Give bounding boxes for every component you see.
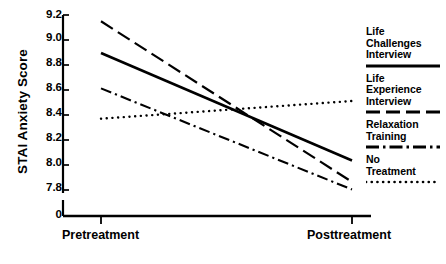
series-line-life-challenges-interview bbox=[101, 53, 352, 161]
series-line-life-experience-interview bbox=[101, 21, 352, 182]
legend-label-line3: Interview bbox=[366, 49, 444, 61]
legend-swatch-dotted bbox=[366, 178, 444, 187]
legend-entry-life-experience-interview: Life Experience Interview bbox=[366, 73, 444, 118]
legend-label-line1: Life bbox=[366, 26, 444, 38]
line-chart-figure: STAI Anxiety Score 9.2 9.0 8.8 8.6 8.4 8… bbox=[0, 0, 446, 264]
legend-label-line2: Treatment bbox=[366, 166, 444, 178]
series-line-no-treatment bbox=[101, 101, 352, 119]
legend-label-line3: Interview bbox=[366, 96, 444, 108]
legend-entry-relaxation-training: Relaxation Training bbox=[366, 119, 444, 152]
legend-entry-no-treatment: No Treatment bbox=[366, 154, 444, 187]
legend-label-line2: Training bbox=[366, 131, 444, 143]
series-line-relaxation-training bbox=[101, 88, 352, 189]
legend-label-line1: No bbox=[366, 154, 444, 166]
legend-swatch-dashdot bbox=[366, 143, 444, 152]
legend-label-line1: Relaxation bbox=[366, 119, 444, 131]
legend-entry-life-challenges-interview: Life Challenges Interview bbox=[366, 26, 444, 71]
legend-swatch-solid bbox=[366, 62, 444, 71]
legend-swatch-dashed bbox=[366, 108, 444, 117]
legend-label-line2: Experience bbox=[366, 84, 444, 96]
chart-legend: Life Challenges Interview Life Experienc… bbox=[366, 26, 444, 189]
